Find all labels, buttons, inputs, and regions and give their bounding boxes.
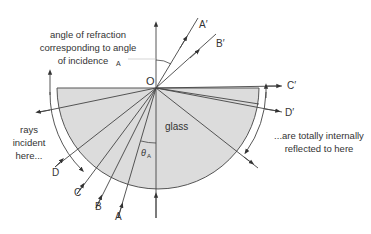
ray-label-D: D [52, 167, 59, 178]
incident-label-3: here... [16, 150, 43, 161]
ray-label-A-prime: A′ [199, 19, 208, 30]
ray-label-C: C [74, 187, 81, 198]
ray-label-C-prime: C′ [287, 80, 296, 91]
ray-label-B-prime: B′ [216, 38, 225, 49]
reflected-label-1: ...are totally internally [274, 130, 364, 141]
incident-label-1: rays [20, 124, 38, 135]
glass-label: glass [165, 121, 188, 132]
angle-caption-line1: angle of refraction [50, 29, 126, 40]
theta-label: θ [141, 148, 146, 158]
refraction-diagram: angle of refraction corresponding to ang… [0, 0, 371, 234]
glass-semicircle [57, 88, 259, 189]
origin-label: O [146, 75, 155, 87]
angle-caption-sub: A [116, 60, 121, 67]
incident-label-2: incident [13, 137, 46, 148]
ray-label-D-prime: D′ [285, 107, 294, 118]
angle-arc-top [156, 60, 171, 64]
ray-label-B: B [95, 201, 102, 212]
ray-label-A: A [115, 211, 122, 222]
theta-sub: A [147, 153, 151, 159]
reflected-label-2: reflected to here [285, 143, 354, 154]
angle-caption-line3: of incidence [58, 55, 109, 66]
angle-caption-line2: corresponding to angle [40, 42, 137, 53]
